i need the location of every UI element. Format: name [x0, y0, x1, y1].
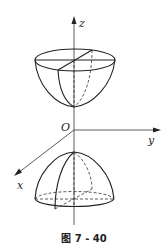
z-axis-label: z — [78, 17, 85, 30]
y-axis-arrow-icon — [153, 128, 161, 133]
x-axis: x — [14, 130, 74, 192]
z-axis-arrow-icon — [72, 16, 77, 24]
y-axis: y — [74, 128, 161, 148]
x-axis-label: x — [17, 179, 24, 192]
y-axis-label: y — [147, 134, 155, 147]
x-axis-arrow-icon — [14, 169, 22, 177]
origin-label: O — [61, 121, 70, 134]
lower-dome — [35, 152, 114, 209]
3d-surfaces-diagram: z y x O — [0, 0, 168, 247]
upper-paraboloid — [35, 49, 115, 107]
figure-caption: 图 7 - 40 — [61, 233, 107, 244]
